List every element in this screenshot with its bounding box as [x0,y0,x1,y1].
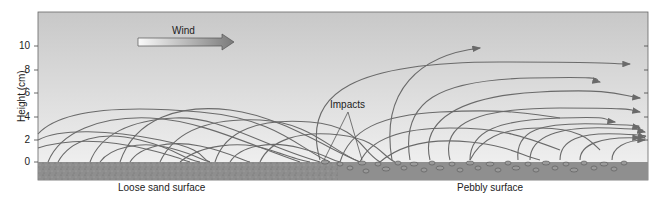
wind-label: Wind [172,25,195,36]
y-axis-label: Height (cm) [16,70,27,122]
pebbly-surface-label: Pebbly surface [457,182,523,193]
impacts-label: Impacts [330,99,365,110]
y-tick-10: 10 [12,40,30,51]
loose-sand-label: Loose sand surface [118,182,205,193]
y-tick-0: 0 [12,156,30,167]
y-tick-2: 2 [12,134,30,145]
loose-sand-ground [38,162,338,180]
